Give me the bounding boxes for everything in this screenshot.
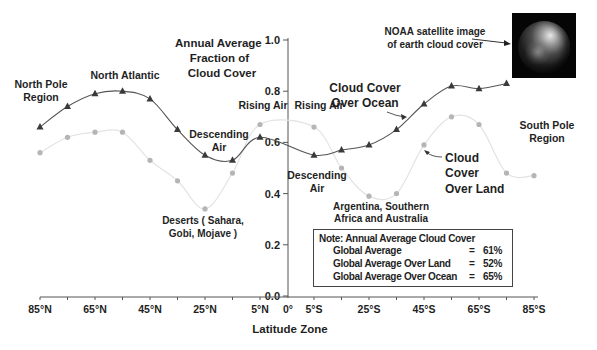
- note-row-equals: =: [469, 258, 475, 270]
- note-row-value: 65%: [483, 271, 502, 283]
- x-tick-label: 65°S: [468, 303, 491, 315]
- ocean-data-point: [202, 151, 209, 158]
- land-data-point: [394, 191, 399, 196]
- x-axis: 85°N65°N45°N25°N5°N0°5°S25°S45°S65°S85°S: [28, 297, 545, 315]
- land-data-point: [311, 124, 316, 129]
- x-tick-label: 25°S: [358, 303, 381, 315]
- ocean-data-point: [147, 95, 154, 102]
- note-row-land: Global Average Over Land = 52%: [333, 258, 511, 270]
- y-axis: 0.00.20.40.60.81.0: [265, 34, 288, 302]
- note-title: Note: Annual Average Cloud Cover: [319, 233, 475, 245]
- note-row-global: Global Average = 61%: [333, 245, 511, 257]
- note-row-value: 61%: [483, 245, 502, 257]
- y-tick-label: 0.2: [265, 239, 280, 251]
- label-north-pole: North PoleRegion: [14, 78, 67, 103]
- x-tick-label: 5°N: [251, 303, 269, 315]
- earth-globe-icon: [518, 21, 570, 73]
- note-row-ocean: Global Average Over Ocean = 65%: [333, 271, 511, 283]
- x-tick-label: 0°: [283, 303, 293, 315]
- label-southern-hemisphere-land: Argentina, SouthernAfrica and Australia: [333, 201, 429, 224]
- land-data-point: [65, 135, 70, 140]
- cloud-cover-chart: 0.00.20.40.60.81.0 85°N65°N45°N25°N5°N0°…: [0, 0, 597, 350]
- label-south-pole: South PoleRegion: [520, 119, 575, 144]
- x-axis-title: Latitude Zone: [252, 323, 327, 335]
- label-north-atlantic: North Atlantic: [90, 69, 159, 81]
- land-data-point: [147, 158, 152, 163]
- y-tick-label: 1.0: [265, 34, 280, 46]
- x-tick-label: 5°S: [305, 303, 322, 315]
- label-ocean-series: Cloud CoverOver Ocean: [329, 81, 401, 110]
- label-land-series: CloudCoverOver Land: [445, 151, 504, 196]
- note-row-equals: =: [469, 271, 475, 283]
- ocean-data-point: [503, 80, 510, 87]
- land-data-point: [504, 171, 509, 176]
- y-axis-title: Annual Average Fraction of Cloud Cover: [175, 37, 265, 79]
- note-row-label: Global Average: [333, 245, 401, 256]
- note-row-equals: =: [469, 245, 475, 257]
- note-row-label: Global Average Over Land: [333, 258, 451, 269]
- note-box: Note: Annual Average Cloud Cover Global …: [313, 229, 513, 287]
- label-deserts: Deserts ( Sahara,Gobi, Mojave ): [162, 215, 244, 239]
- label-descending-air-south: DescendingAir: [287, 169, 347, 194]
- ocean-data-point: [421, 100, 428, 107]
- land-data-point: [366, 194, 371, 199]
- note-row-value: 52%: [483, 258, 502, 270]
- y-tick-label: 0.0: [265, 290, 280, 302]
- ocean-data-point: [37, 123, 44, 129]
- x-tick-label: 45°S: [413, 303, 436, 315]
- y-tick-label: 0.4: [265, 188, 281, 200]
- land-data-point: [449, 114, 454, 119]
- land-data-point: [257, 122, 262, 127]
- land-data-point: [476, 122, 481, 127]
- x-tick-label: 85°S: [523, 303, 546, 315]
- satellite-pointer-arrowhead: [504, 40, 511, 46]
- ocean-pointer-arrowhead: [401, 114, 407, 120]
- x-tick-label: 25°N: [193, 303, 216, 315]
- ocean-data-point: [257, 133, 264, 140]
- land-data-point: [92, 130, 97, 135]
- y-tick-label: 0.8: [265, 85, 280, 97]
- satellite-earth-image: [512, 13, 576, 78]
- ocean-data-point: [476, 85, 483, 92]
- ocean-data-point: [119, 87, 126, 94]
- x-tick-label: 65°N: [83, 303, 106, 315]
- label-satellite-caption: NOAA satellite imageof earth cloud cover: [385, 26, 486, 50]
- note-row-label: Global Average Over Ocean: [333, 271, 457, 282]
- land-data-point: [202, 206, 207, 211]
- land-data-point: [120, 130, 125, 135]
- x-tick-label: 85°N: [28, 303, 51, 315]
- label-rising-air-north: Rising Air: [238, 99, 287, 111]
- land-data-point: [531, 173, 536, 178]
- label-descending-air-north: DescendingAir: [189, 128, 249, 153]
- land-data-point: [175, 178, 180, 183]
- land-data-point: [421, 142, 426, 147]
- ocean-data-point: [393, 126, 400, 133]
- ocean-data-point: [64, 103, 71, 110]
- land-data-point: [37, 150, 42, 155]
- x-tick-label: 45°N: [138, 303, 161, 315]
- land-data-point: [230, 171, 235, 176]
